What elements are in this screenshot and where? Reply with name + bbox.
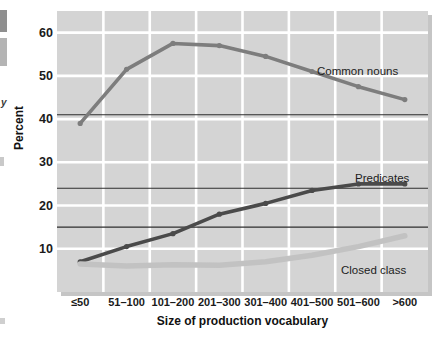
y-tick-label: 60: [27, 27, 53, 40]
line-chart-figure: 102030405060 ≤5051–100101–200201–300301–…: [0, 0, 442, 347]
x-tick-label: 51–100: [103, 297, 149, 308]
y-axis-title: Percent: [12, 106, 26, 150]
y-tick-label: 20: [27, 200, 53, 213]
x-tick-label: 401–500: [289, 297, 335, 308]
series-label-common-nouns: Common nouns: [317, 66, 398, 78]
y-tick-label: 10: [27, 243, 53, 256]
series-label-closed-class: Closed class: [341, 265, 406, 277]
y-tick-label: 30: [27, 156, 53, 169]
x-tick-label: 301–400: [243, 297, 289, 308]
x-tick-label: >600: [382, 297, 428, 308]
series-label-predicates: Predicates: [355, 173, 409, 185]
y-tick-label: 50: [27, 70, 53, 83]
x-tick-label: ≤50: [57, 297, 103, 308]
x-axis-title: Size of production vocabulary: [57, 314, 428, 328]
x-tick-label: 501–600: [335, 297, 381, 308]
plot-area: [57, 11, 428, 292]
x-tick-label: 201–300: [196, 297, 242, 308]
plot-canvas: [57, 11, 428, 292]
x-tick-label: 101–200: [150, 297, 196, 308]
y-tick-label: 40: [27, 113, 53, 126]
